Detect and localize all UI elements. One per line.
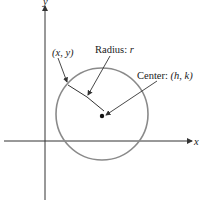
circle-diagram: x y (x, y) Radius: r Center: (h, k): [0, 0, 201, 207]
radius-arrow: [88, 56, 110, 95]
center-point: [100, 114, 104, 118]
radius-label: Radius: r: [95, 44, 135, 55]
point-label: (x, y): [52, 47, 74, 59]
y-axis-label: y: [42, 0, 48, 7]
center-arrow: [106, 81, 157, 115]
center-label: Center: (h, k): [137, 70, 193, 82]
x-axis-label: x: [193, 136, 199, 147]
point-arrow: [58, 58, 67, 82]
radius-line: [68, 85, 104, 111]
